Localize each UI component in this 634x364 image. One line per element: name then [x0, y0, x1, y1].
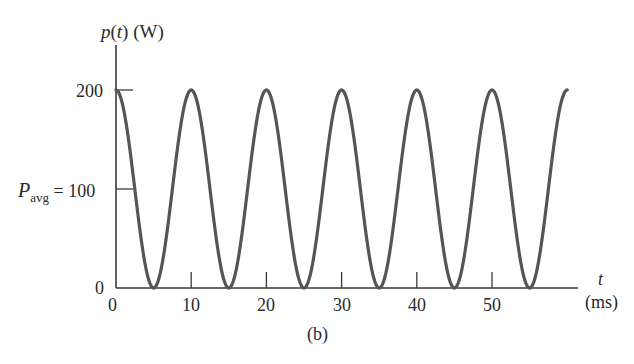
x-tick-label-50: 50 — [483, 296, 501, 314]
pavg-value: = 100 — [54, 181, 96, 201]
y-tick-label-200: 200 — [76, 82, 103, 100]
y-tick-label-0: 0 — [95, 279, 104, 297]
y-label-t: t — [117, 21, 122, 42]
x-tick-label-0: 0 — [108, 296, 117, 314]
pavg-symbol: P — [18, 179, 30, 201]
y-axis-label: p(t) (W) — [101, 22, 164, 41]
pavg-subscript: avg — [30, 190, 49, 205]
x-tick-label-40: 40 — [408, 296, 426, 314]
power-curve — [116, 90, 567, 288]
figure-caption: (b) — [307, 325, 328, 343]
x-tick-label-30: 30 — [333, 296, 351, 314]
x-tick-label-20: 20 — [257, 296, 275, 314]
x-axis-label-t: t — [598, 270, 603, 288]
x-tick-label-10: 10 — [182, 296, 200, 314]
y-label-p: p — [101, 21, 111, 42]
y-label-unit: (W) — [133, 21, 164, 42]
x-axis-unit: (ms) — [585, 293, 618, 311]
pavg-label: Pavg = 100 — [18, 180, 95, 200]
